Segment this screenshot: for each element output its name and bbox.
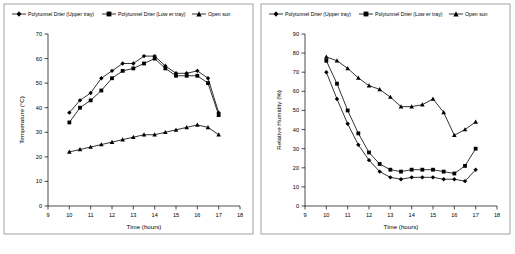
square-marker	[324, 59, 328, 63]
square-marker	[121, 69, 125, 73]
series-line	[326, 61, 475, 174]
legend-label-opensun: Open sun	[208, 11, 231, 17]
square-marker	[142, 62, 146, 66]
diamond-marker	[324, 70, 328, 74]
y-tick-label: 40	[36, 105, 42, 111]
x-axis-title: Time (hours)	[127, 223, 162, 230]
diamond-marker	[431, 175, 435, 179]
x-axis-title: Time (hours)	[384, 223, 419, 230]
y-tick-label: 30	[36, 129, 42, 135]
diamond-marker	[399, 177, 403, 181]
y-tick-label: 10	[293, 184, 299, 190]
diamond-icon	[274, 11, 279, 17]
square-marker	[367, 151, 371, 155]
square-marker	[153, 57, 157, 61]
square-marker	[356, 131, 360, 135]
triangle-marker	[388, 95, 393, 99]
triangle-marker	[431, 97, 436, 101]
y-tick-label: 20	[293, 165, 299, 171]
square-marker	[420, 168, 424, 172]
humidity-chart-panel: Polytunnel Drier (Upper tray) Polytunnel…	[257, 0, 514, 254]
y-tick-label: 70	[293, 69, 299, 75]
x-tick-label: 10	[323, 212, 329, 218]
data-series-group	[324, 55, 478, 184]
square-marker	[442, 170, 446, 174]
legend-label-lower: Polytunnel Drier (Low er tray)	[118, 11, 186, 17]
y-tick-label: 50	[293, 107, 299, 113]
square-marker	[431, 168, 435, 172]
square-marker	[206, 81, 210, 85]
y-tick-label: 20	[36, 154, 42, 160]
y-tick-label: 30	[293, 146, 299, 152]
diamond-icon	[17, 11, 22, 17]
triangle-marker	[420, 102, 425, 106]
triangle-marker	[324, 55, 329, 59]
diamond-marker	[409, 175, 413, 179]
square-marker	[474, 147, 478, 151]
y-ticks: 0 10 20 30 40 50 60 70	[36, 31, 48, 209]
x-ticks: 9 10 11 12 13 14 15 16 17	[46, 206, 243, 218]
triangle-marker	[216, 132, 221, 136]
square-marker	[335, 82, 339, 86]
square-marker	[110, 76, 114, 80]
x-tick-label: 16	[194, 212, 200, 218]
x-tick-label: 13	[387, 212, 393, 218]
square-marker	[185, 74, 189, 78]
x-tick-label: 11	[88, 212, 94, 218]
triangle-marker	[452, 133, 457, 137]
y-axis-title: Relative Humidity (%)	[275, 90, 282, 149]
triangle-marker	[345, 66, 350, 70]
x-tick-label: 17	[473, 212, 479, 218]
series-line	[326, 72, 475, 181]
x-tick-label: 12	[109, 212, 115, 218]
y-tick-label: 60	[293, 88, 299, 94]
y-tick-label: 60	[36, 56, 42, 62]
x-tick-label: 9	[46, 212, 49, 218]
square-marker	[195, 74, 199, 78]
legend-label-opensun: Open sun	[465, 11, 488, 17]
x-tick-label: 13	[130, 212, 136, 218]
square-marker	[463, 164, 467, 168]
square-marker	[452, 172, 456, 176]
temperature-chart-svg: Polytunnel Drier (Upper tray) Polytunnel…	[0, 0, 257, 254]
chart-frame	[4, 4, 253, 234]
legend-label-upper: Polytunnel Drier (Upper tray)	[285, 11, 351, 17]
square-marker	[89, 98, 93, 102]
x-tick-label: 17	[216, 212, 222, 218]
series-line	[69, 59, 218, 123]
square-marker	[78, 106, 82, 110]
y-tick-label: 80	[293, 50, 299, 56]
x-tick-label: 18	[494, 212, 500, 218]
y-tick-label: 0	[39, 203, 42, 209]
x-tick-label: 12	[366, 212, 372, 218]
square-marker	[399, 170, 403, 174]
square-marker	[217, 113, 221, 117]
triangle-marker	[195, 123, 200, 127]
square-marker	[174, 74, 178, 78]
x-tick-label: 18	[237, 212, 243, 218]
chart-frame	[261, 4, 510, 234]
diamond-marker	[441, 177, 445, 181]
square-icon	[364, 12, 369, 17]
diamond-marker	[345, 122, 349, 126]
data-series-group	[67, 54, 221, 154]
square-marker	[410, 168, 414, 172]
x-tick-label: 14	[409, 212, 415, 218]
x-tick-label: 15	[430, 212, 436, 218]
figure-container: Polytunnel Drier (Upper tray) Polytunnel…	[0, 0, 515, 254]
y-tick-label: 40	[293, 127, 299, 133]
legend: Polytunnel Drier (Upper tray) Polytunnel…	[269, 11, 488, 17]
x-tick-label: 9	[303, 212, 306, 218]
square-icon	[107, 12, 112, 17]
y-tick-label: 10	[36, 178, 42, 184]
square-marker	[378, 162, 382, 166]
x-tick-label: 15	[173, 212, 179, 218]
legend-label-upper: Polytunnel Drier (Upper tray)	[28, 11, 94, 17]
humidity-chart-svg: Polytunnel Drier (Upper tray) Polytunnel…	[257, 0, 514, 254]
triangle-marker	[367, 83, 372, 87]
diamond-marker	[335, 97, 339, 101]
x-tick-label: 11	[345, 212, 351, 218]
square-marker	[131, 67, 135, 71]
legend-label-lower: Polytunnel Drier (Low er tray)	[375, 11, 443, 17]
x-tick-label: 16	[451, 212, 457, 218]
